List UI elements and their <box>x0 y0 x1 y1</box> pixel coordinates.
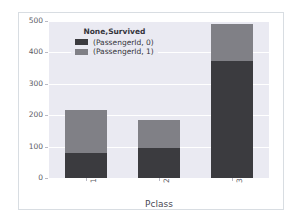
gridline <box>49 21 269 22</box>
legend-label: (PassengerId, 1) <box>93 48 154 56</box>
y-tick-label: 500 <box>29 17 43 25</box>
legend-entry: (PassengerId, 0) <box>75 39 154 47</box>
stacked-bar <box>211 24 253 178</box>
chart-figure: 0100200300400500 123 Pclass None,Survive… <box>18 12 284 210</box>
y-tick-mark <box>45 52 48 53</box>
x-tick-label: 1 <box>90 178 98 183</box>
y-tick-label: 0 <box>38 174 43 182</box>
y-tick-label: 400 <box>29 49 43 57</box>
bar-segment <box>211 24 253 61</box>
y-tick-mark <box>45 147 48 148</box>
bar-segment <box>138 148 180 178</box>
y-tick-label: 100 <box>29 143 43 151</box>
stacked-bar <box>138 120 180 178</box>
legend-entries: (PassengerId, 0)(PassengerId, 1) <box>75 39 154 56</box>
y-tick-label: 300 <box>29 80 43 88</box>
x-tick-mark <box>232 178 233 181</box>
bar-segment <box>211 61 253 178</box>
y-tick-mark <box>45 21 48 22</box>
y-tick-mark <box>45 115 48 116</box>
bar-segment <box>65 110 107 153</box>
bar-segment <box>65 153 107 178</box>
y-tick-mark <box>45 84 48 85</box>
bar-segment <box>138 120 180 147</box>
x-tick-mark <box>86 178 87 181</box>
plot-area: 0100200300400500 123 Pclass None,Survive… <box>49 21 269 178</box>
screenshot-root: 0100200300400500 123 Pclass None,Survive… <box>0 0 299 223</box>
x-tick-label: 2 <box>163 178 171 183</box>
legend-swatch <box>75 39 88 45</box>
legend-swatch <box>75 49 88 55</box>
legend-title: None,Survived <box>75 28 154 36</box>
chart-legend: None,Survived (PassengerId, 0)(Passenger… <box>71 25 158 59</box>
legend-entry: (PassengerId, 1) <box>75 48 154 56</box>
y-tick-label: 200 <box>29 111 43 119</box>
y-tick-mark <box>45 178 48 179</box>
x-axis-label: Pclass <box>49 200 269 209</box>
stacked-bar <box>65 110 107 178</box>
x-tick-label: 3 <box>236 178 244 183</box>
x-tick-mark <box>159 178 160 181</box>
legend-label: (PassengerId, 0) <box>93 39 154 47</box>
